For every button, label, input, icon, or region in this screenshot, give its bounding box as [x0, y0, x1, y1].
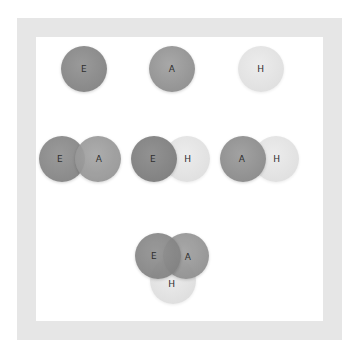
label-h: H — [168, 279, 175, 289]
label-a: A — [239, 154, 246, 164]
label-a: A — [185, 252, 192, 262]
label-h: H — [184, 154, 191, 164]
label-h: H — [273, 154, 280, 164]
label-h: H — [257, 64, 264, 74]
circle-e — [135, 233, 181, 279]
label-e: E — [81, 64, 87, 74]
venn-diagram-canvas: E A H E A E H A H E A H — [0, 0, 357, 354]
label-a: A — [96, 154, 103, 164]
label-e: E — [57, 154, 63, 164]
label-a: A — [169, 64, 176, 74]
label-e: E — [150, 154, 156, 164]
label-e: E — [151, 251, 157, 261]
